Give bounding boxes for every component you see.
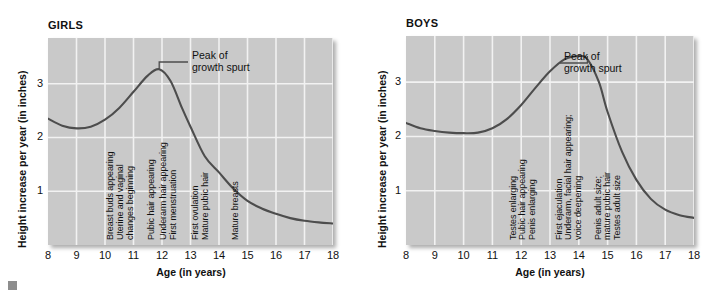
- x-tick-label: 18: [683, 249, 705, 261]
- x-tick-label: 11: [481, 249, 503, 261]
- annotation-text-line: growth spurt: [564, 62, 622, 74]
- y-tick-label: 3: [23, 77, 43, 89]
- milestone-label: Penis enlarging: [527, 179, 537, 240]
- x-tick-label: 17: [654, 249, 676, 261]
- milestone-label: Underarm, facial hair appearing;: [563, 115, 573, 240]
- plot-svg-boys: [406, 36, 694, 245]
- x-tick-label: 14: [568, 249, 590, 261]
- milestone-label: Pubic hair appearing: [146, 159, 156, 240]
- chart-panel-boys: BOYS Height increase per year (in inches…: [364, 0, 727, 297]
- x-tick-label: 14: [208, 249, 230, 261]
- milestone-label: Breast buds appearing: [105, 152, 115, 240]
- annotation-peak-of-growth-spurt: Peak ofgrowth spurt: [192, 49, 250, 74]
- milestone-label: First ovulation: [190, 185, 200, 240]
- x-tick-label: 10: [453, 249, 475, 261]
- milestone-label: Underarm hair appearing: [158, 142, 168, 240]
- milestone-label: Pubic hair appearing: [517, 159, 527, 240]
- annotation-text-line: Peak of: [564, 50, 622, 62]
- x-tick-label: 9: [424, 249, 446, 261]
- chart-title-boys: BOYS: [406, 17, 438, 29]
- milestone-label: changes beginning: [125, 166, 135, 240]
- annotation-leader-line: [159, 62, 188, 69]
- x-tick-label: 8: [37, 249, 59, 261]
- x-tick-label: 12: [510, 249, 532, 261]
- milestone-label: Mature breasts: [230, 181, 240, 240]
- x-axis-title-boys: Age (in years): [406, 266, 694, 278]
- annotation-text-line: growth spurt: [192, 61, 250, 73]
- y-tick-label: 3: [381, 75, 401, 87]
- milestone-label: First menstruation: [168, 170, 178, 240]
- x-tick-label: 8: [395, 249, 417, 261]
- x-tick-label: 18: [322, 249, 344, 261]
- chart-title-girls: GIRLS: [48, 19, 83, 31]
- x-tick-label: 17: [294, 249, 316, 261]
- milestone-label: Testes adult size: [612, 175, 622, 240]
- y-axis-title-girls: Height increase per year (in inches): [16, 71, 28, 248]
- figure-corner-mark-icon: [8, 281, 17, 290]
- annotation-peak-of-growth-spurt: Peak ofgrowth spurt: [564, 50, 622, 75]
- x-tick-label: 13: [180, 249, 202, 261]
- y-tick-label: 2: [381, 129, 401, 141]
- x-tick-label: 11: [123, 249, 145, 261]
- y-tick-label: 2: [23, 130, 43, 142]
- milestone-label: mature pubic hair: [602, 172, 612, 240]
- milestone-label: voice deepening: [573, 176, 583, 240]
- x-tick-label: 15: [597, 249, 619, 261]
- x-tick-label: 15: [237, 249, 259, 261]
- x-tick-label: 16: [265, 249, 287, 261]
- x-tick-label: 13: [539, 249, 561, 261]
- x-tick-label: 12: [151, 249, 173, 261]
- milestone-label: Uterine and vaginal: [115, 164, 125, 240]
- x-tick-label: 10: [94, 249, 116, 261]
- x-axis-title-girls: Age (in years): [48, 266, 334, 278]
- plot-area-boys: [406, 36, 694, 245]
- y-tick-label: 1: [381, 184, 401, 196]
- y-axis-title-boys: Height increase per year (in inches): [376, 71, 388, 248]
- milestone-label: Mature pubic hair: [200, 172, 210, 240]
- y-tick-label: 1: [23, 184, 43, 196]
- x-tick-label: 16: [625, 249, 647, 261]
- chart-panel-girls: GIRLS Height increase per year (in inche…: [0, 0, 363, 297]
- annotation-text-line: Peak of: [192, 49, 250, 61]
- x-tick-label: 9: [66, 249, 88, 261]
